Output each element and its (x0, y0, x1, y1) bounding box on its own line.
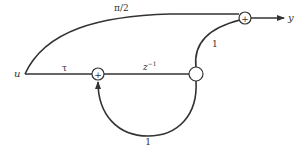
plus-icon: + (94, 70, 102, 80)
gain-feedforward-label: π/2 (114, 3, 129, 13)
edge-feedback-state-to-sum1 (98, 81, 196, 136)
gain-feedback-label: 1 (145, 137, 151, 147)
state-node (189, 67, 203, 81)
sum-node-2: + (239, 12, 251, 24)
plus-icon: + (241, 14, 249, 24)
gain-state-to-output-label: 1 (212, 39, 218, 49)
edge-state-to-sum2 (196, 20, 240, 67)
output-label: y (287, 12, 294, 23)
edge-feedforward-input-to-sum2 (25, 14, 239, 74)
signal-flow-diagram: + + u τ z−1 1 π/2 1 y (0, 0, 301, 148)
input-label: u (14, 68, 20, 79)
gain-tau-label: τ (62, 63, 67, 73)
sum-node-1: + (92, 68, 104, 80)
gain-delay-exponent: −1 (148, 60, 157, 67)
gain-delay-label: z−1 (142, 60, 157, 72)
